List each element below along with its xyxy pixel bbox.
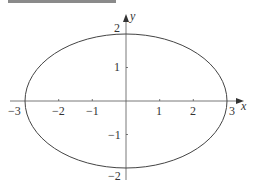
x-tick-label: −2 [52, 104, 65, 118]
x-tick-label: 1 [156, 104, 162, 118]
x-axis-label: x [240, 99, 247, 113]
y-axis-label: y [129, 9, 136, 23]
x-tick-label: 3 [229, 104, 235, 118]
y-tick-label: 1 [114, 60, 120, 74]
y-axis-arrow-icon [123, 14, 129, 22]
x-tick-label: −1 [86, 104, 99, 118]
y-tick-label: −1 [108, 128, 121, 142]
x-tick-label: −3 [8, 104, 21, 118]
ellipse-chart: −3 −2 −1 1 2 3 x 2 1 −1 −2 y [0, 0, 256, 191]
x-tick-label: 2 [190, 104, 196, 118]
y-tick-label: 2 [114, 21, 120, 35]
y-tick-label: −2 [108, 169, 121, 183]
